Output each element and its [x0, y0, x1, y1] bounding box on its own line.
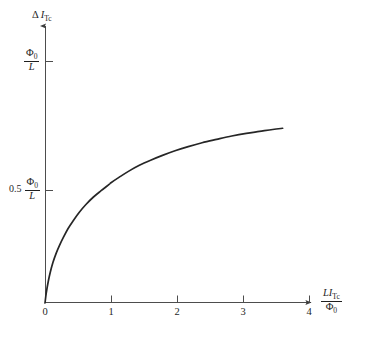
y-axis-delta-symbol: Δ [32, 9, 39, 20]
fraction-numerator: Φ0 [24, 48, 39, 62]
plot-canvas [0, 0, 367, 343]
fraction-numerator: LITc [321, 288, 342, 302]
x-tick-label-3: 3 [240, 306, 245, 317]
y-tick-label-lower: 0.5 Φ0 L [9, 177, 40, 202]
x-tick-label-2: 2 [174, 306, 179, 317]
x-tick-label-4: 4 [306, 306, 311, 317]
y-axis-title: ΔITc [32, 10, 52, 23]
fraction-denominator: L [24, 62, 39, 73]
fraction-denominator: Φ0 [321, 302, 342, 315]
fraction-numerator: Φ0 [25, 177, 40, 191]
x-axis-title: LITc Φ0 [321, 288, 342, 315]
fraction-phi0-over-L: Φ0 L [24, 48, 39, 73]
y-axis-ticks [46, 62, 54, 191]
y-tick-label-upper: Φ0 L [24, 48, 39, 73]
x-tick-label-1: 1 [108, 306, 113, 317]
data-curve [45, 128, 283, 303]
fraction-denominator: L [25, 191, 40, 202]
figure-container: ΔITc Φ0 L 0.5 Φ0 L 0 1 2 3 4 LITc Φ0 [0, 0, 367, 343]
fraction-LITc-over-phi0: LITc Φ0 [321, 288, 342, 315]
y-axis-subscript: Tc [44, 14, 51, 23]
fraction-phi0-over-L-half: Φ0 L [25, 177, 40, 202]
y-tick-scalar: 0.5 [9, 184, 22, 194]
x-tick-label-0: 0 [42, 306, 47, 317]
x-axis-ticks [112, 296, 310, 303]
